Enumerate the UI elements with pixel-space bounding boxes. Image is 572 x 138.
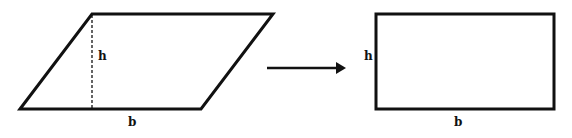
parallelogram-shape bbox=[20, 14, 273, 109]
parallelogram-height-label: h bbox=[98, 50, 107, 62]
rectangle-height-label: h bbox=[364, 50, 373, 62]
rectangle-base-label: b bbox=[454, 116, 462, 128]
rectangle-shape bbox=[376, 14, 554, 109]
diagram-canvas bbox=[0, 0, 572, 138]
transform-arrow-head-icon bbox=[336, 62, 346, 74]
parallelogram-base-label: b bbox=[128, 116, 136, 128]
